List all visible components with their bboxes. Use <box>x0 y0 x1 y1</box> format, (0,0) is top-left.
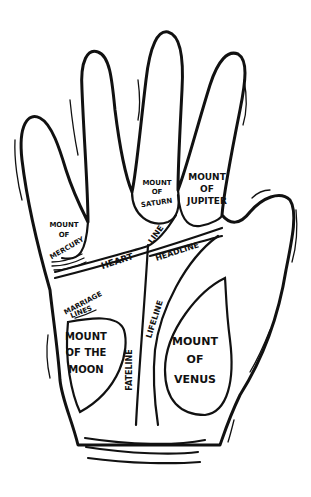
svg-text:JUPITER: JUPITER <box>186 196 227 206</box>
svg-text:MOUNT: MOUNT <box>65 331 107 342</box>
svg-text:MOUNT: MOUNT <box>142 179 171 187</box>
svg-text:MOON: MOON <box>68 364 103 375</box>
label-fateline: FATELINE <box>125 349 134 390</box>
svg-text:OF THE: OF THE <box>66 347 107 358</box>
svg-text:MOUNT: MOUNT <box>188 172 226 182</box>
svg-text:VENUS: VENUS <box>174 373 216 386</box>
svg-text:MOUNT: MOUNT <box>49 221 78 229</box>
palmistry-hand-diagram: MOUNT OF SATURN MOUNT OF JUPITER MOUNT O… <box>0 0 311 497</box>
svg-text:OF: OF <box>152 188 163 196</box>
svg-text:MOUNT: MOUNT <box>172 335 218 348</box>
svg-text:OF: OF <box>59 231 70 239</box>
label-mount-of-the-moon: MOUNT OF THE MOON <box>65 331 107 375</box>
svg-text:OF: OF <box>200 184 214 194</box>
svg-text:OF: OF <box>187 353 204 366</box>
